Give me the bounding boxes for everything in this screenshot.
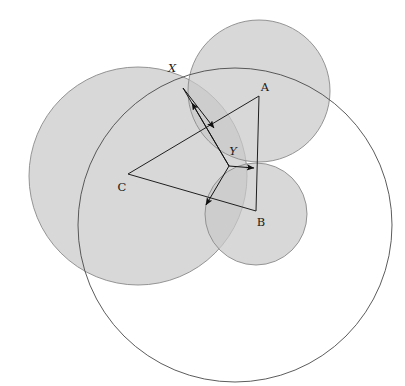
point-label-B: B	[257, 215, 265, 229]
diagram-canvas: ABCXY	[0, 0, 405, 386]
shaded-disks	[29, 20, 330, 285]
disk-A	[188, 20, 330, 162]
point-label-X: X	[167, 61, 177, 75]
point-label-A: A	[260, 80, 270, 94]
point-label-C: C	[118, 180, 127, 194]
geometry-figure: ABCXY	[0, 0, 405, 386]
disk-B	[205, 163, 307, 265]
